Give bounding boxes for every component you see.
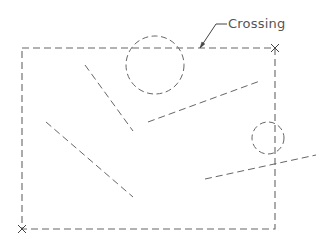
drawing-area <box>0 0 330 242</box>
line-1 <box>85 65 133 131</box>
arrowhead-icon <box>200 42 205 48</box>
crossing-selection-window <box>22 48 275 229</box>
line-2 <box>46 122 133 197</box>
annotation-leader <box>200 24 227 48</box>
corner-markers <box>18 44 279 233</box>
large-circle <box>126 36 184 94</box>
circles-group <box>126 36 284 154</box>
line-3 <box>148 81 260 122</box>
diagram-canvas: Crossing <box>0 0 330 242</box>
crossing-label: Crossing <box>228 17 285 30</box>
line-4 <box>205 155 316 179</box>
small-circle <box>252 122 284 154</box>
selection-rectangle <box>22 48 275 229</box>
